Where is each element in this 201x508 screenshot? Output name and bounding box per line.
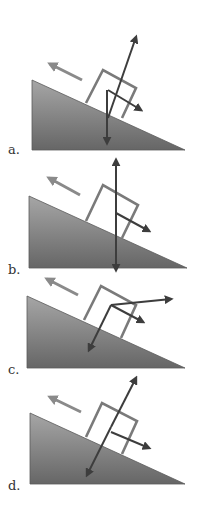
panel-c xyxy=(27,279,185,368)
motion-direction-arrow-icon xyxy=(47,279,78,295)
motion-direction-arrow-icon xyxy=(50,397,81,412)
incline-diagram xyxy=(0,0,201,508)
panel-a xyxy=(32,37,185,150)
motion-direction-arrow-icon xyxy=(50,64,82,80)
panel-b xyxy=(29,160,187,270)
incline-ramp xyxy=(30,413,185,484)
option-label: c. xyxy=(8,362,19,377)
incline-ramp xyxy=(29,196,187,268)
option-label: a. xyxy=(8,142,20,157)
panel-d xyxy=(30,378,185,484)
force-vector-arrow-icon xyxy=(111,299,171,305)
option-label: d. xyxy=(8,478,20,493)
force-vector-arrow-icon xyxy=(108,37,136,118)
force-vector-arrow-icon xyxy=(108,90,141,110)
option-label: b. xyxy=(8,262,20,277)
incline-ramp xyxy=(27,296,185,368)
motion-direction-arrow-icon xyxy=(49,178,80,195)
force-vector-arrow-icon xyxy=(111,305,143,322)
